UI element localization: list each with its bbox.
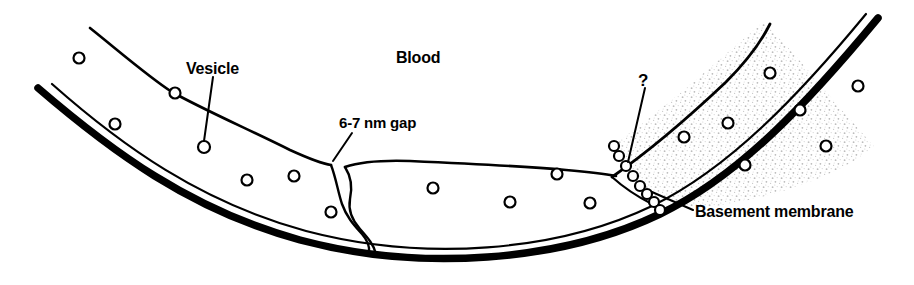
vesicle-circle <box>552 169 563 180</box>
capillary-wall-diagram <box>0 0 914 285</box>
vesicle-circle <box>765 68 776 79</box>
label-vesicle: Vesicle <box>186 60 239 78</box>
label-basement-membrane: Basement membrane <box>695 203 853 221</box>
label-gap: 6-7 nm gap <box>339 114 416 131</box>
luminal-border-middle <box>345 161 616 176</box>
vesicle-circle <box>428 183 439 194</box>
vesicle-circle <box>585 198 596 209</box>
gap-leader-line <box>333 133 352 161</box>
vesicle-circle <box>795 105 806 116</box>
vesicle-circle <box>679 132 690 143</box>
chain-vesicle <box>621 161 631 171</box>
vesicle-circle <box>740 160 751 171</box>
vesicle-circle <box>170 88 181 99</box>
vesicle-circle <box>110 119 121 130</box>
chain-vesicle <box>609 141 619 151</box>
endothelial-cell-right <box>0 0 914 285</box>
vesicle-circle <box>326 207 337 218</box>
vesicle-circle <box>505 197 516 208</box>
vesicle-circle <box>289 171 300 182</box>
vesicle-circle <box>74 53 85 64</box>
label-blood: Blood <box>396 49 440 67</box>
diagram-canvas: Blood Vesicle 6-7 nm gap Basement membra… <box>0 0 914 285</box>
vesicle-circle <box>198 141 210 153</box>
label-question-mark: ? <box>638 71 648 91</box>
chain-vesicle <box>614 151 624 161</box>
vesicle-circle <box>242 175 253 186</box>
vesicle-circle <box>821 141 832 152</box>
chain-vesicle <box>655 205 665 215</box>
chain-vesicle <box>628 171 638 181</box>
vesicle-circle <box>853 81 864 92</box>
vesicle-circle <box>723 118 734 129</box>
